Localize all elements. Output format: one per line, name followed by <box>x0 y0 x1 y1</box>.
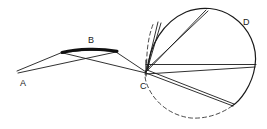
label-b: B <box>88 35 94 45</box>
label-d: D <box>243 17 250 27</box>
ray-c-to-circle-bottom-a <box>146 73 233 106</box>
ray-c-to-circle-bottom-b <box>147 70 234 104</box>
diagram-canvas: A B C D <box>0 0 267 129</box>
ray-diagram-figure: A B C D <box>0 0 267 129</box>
label-c: C <box>140 81 147 91</box>
ray-b-to-c-upper <box>63 53 146 73</box>
label-a: A <box>20 78 26 88</box>
ray-c-to-circle-right <box>146 67 255 74</box>
